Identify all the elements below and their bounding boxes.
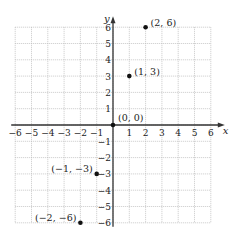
y-tick-label: 3 bbox=[105, 72, 111, 82]
point-label: (−1, −3) bbox=[51, 163, 92, 174]
y-tick-label: −2 bbox=[98, 153, 111, 163]
point-label: (0, 0) bbox=[118, 112, 144, 123]
x-tick-label: 5 bbox=[192, 128, 198, 138]
y-tick-label: 6 bbox=[105, 23, 111, 33]
y-tick-label: −1 bbox=[98, 137, 111, 147]
point-label: (−2, −6) bbox=[35, 212, 76, 223]
x-tick-label: −2 bbox=[74, 128, 87, 138]
x-tick-label: 6 bbox=[208, 128, 214, 138]
y-tick-label: 2 bbox=[105, 88, 111, 98]
x-tick-label: −5 bbox=[25, 128, 39, 138]
data-point bbox=[111, 123, 116, 128]
y-axis-arrow-icon bbox=[111, 16, 116, 23]
point-label: (1, 3) bbox=[134, 66, 160, 77]
data-point bbox=[78, 221, 83, 226]
x-tick-label: 4 bbox=[175, 128, 181, 138]
x-tick-label: 3 bbox=[159, 128, 165, 138]
x-tick-label: −6 bbox=[9, 128, 23, 138]
y-tick-label: −6 bbox=[98, 218, 112, 228]
x-tick-label: −3 bbox=[57, 128, 71, 138]
y-tick-label: 1 bbox=[105, 104, 111, 114]
y-tick-label: −5 bbox=[98, 202, 112, 212]
x-tick-label: 2 bbox=[143, 128, 149, 138]
data-point bbox=[94, 172, 99, 177]
y-tick-label: −3 bbox=[98, 169, 112, 179]
point-label: (2, 6) bbox=[151, 17, 177, 28]
coordinate-plane: xy−6−5−4−3−2−1123456654321−1−2−3−4−5−6(2… bbox=[0, 0, 235, 243]
y-tick-label: 4 bbox=[105, 55, 111, 65]
data-point bbox=[143, 25, 148, 30]
y-tick-label: −4 bbox=[98, 186, 112, 196]
x-tick-label: 1 bbox=[126, 128, 132, 138]
y-tick-label: 5 bbox=[105, 39, 111, 49]
x-axis-label: x bbox=[223, 125, 229, 136]
data-point bbox=[127, 74, 132, 79]
x-tick-label: −4 bbox=[41, 128, 55, 138]
